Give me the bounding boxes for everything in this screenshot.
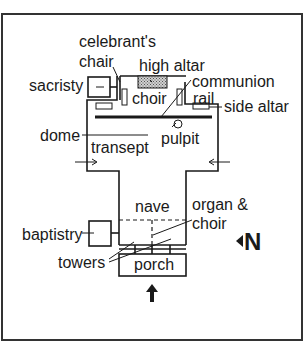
label-towers: towers [58, 254, 105, 271]
label-communion: communion [192, 73, 275, 90]
label-sacristy: sacristy [29, 77, 83, 94]
label-north: N [244, 228, 261, 255]
label-side-altar: side altar [224, 98, 290, 115]
high-altar [138, 76, 167, 88]
label-porch: porch [134, 256, 174, 273]
label-organ: organ & [192, 196, 248, 213]
church-floor-plan: celebrant's chair high altar sacristy ch… [0, 0, 305, 342]
label-dome: dome [40, 127, 80, 144]
label-celebrants-chair-2: chair [79, 53, 114, 70]
label-nave: nave [135, 198, 170, 215]
label-baptistry: baptistry [22, 226, 82, 243]
label-rail: rail [193, 90, 214, 107]
label-transept: transept [91, 139, 149, 156]
label-organ-choir: choir [192, 215, 227, 232]
label-celebrants-chair: celebrant's [79, 33, 156, 50]
label-choir: choir [132, 90, 167, 107]
label-pulpit: pulpit [161, 130, 200, 147]
label-high-altar: high altar [139, 57, 205, 74]
